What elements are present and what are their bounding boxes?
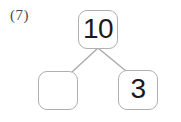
number-bond-part-value-right: 3 [130, 75, 145, 103]
number-bond-part-box-right[interactable]: 3 [118, 70, 158, 110]
worksheet-number-bond-figure: (7) 10 3 [0, 0, 181, 122]
connector-line-left [72, 48, 98, 72]
number-bond-part-box-left[interactable] [38, 71, 78, 110]
number-bond-total-value: 10 [83, 15, 113, 43]
number-bond-total-box[interactable]: 10 [78, 10, 118, 49]
connector-line-right [98, 48, 126, 71]
